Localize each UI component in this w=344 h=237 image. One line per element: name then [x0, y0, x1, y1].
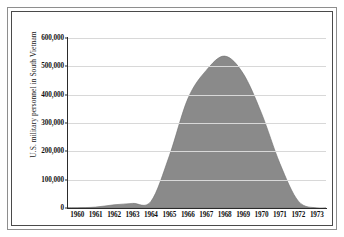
x-axis-tick-label: 1965: [162, 211, 176, 219]
y-axis-tick-label: 400,000: [41, 91, 64, 99]
x-axis-tick-label: 1966: [181, 211, 195, 219]
y-axis-tick-label: 300,000: [41, 119, 64, 127]
area-series-path: [68, 56, 326, 208]
figure-outer-border: U.S. military personnel in South Vietnam…: [7, 7, 337, 230]
gridline: [68, 95, 326, 96]
y-axis-tick-mark: [65, 38, 68, 39]
y-axis-tick-mark: [65, 151, 68, 152]
x-axis-tick-label: 1967: [199, 211, 213, 219]
chart-figure: U.S. military personnel in South Vietnam…: [12, 12, 332, 225]
x-axis-tick-labels: 1960196119621963196419651966196719681969…: [68, 211, 326, 225]
figure-inner-border: U.S. military personnel in South Vietnam…: [11, 11, 333, 226]
x-axis-tick-label: 1968: [218, 211, 232, 219]
x-axis-tick-label: 1971: [273, 211, 287, 219]
y-axis-tick-label: 0: [61, 204, 65, 212]
x-axis-tick-label: 1960: [70, 211, 84, 219]
y-axis-tick-label: 600,000: [41, 34, 64, 42]
y-axis-tick-mark: [65, 208, 68, 209]
x-axis-tick-label: 1964: [144, 211, 158, 219]
y-axis-tick-label: 200,000: [41, 147, 64, 155]
gridline: [68, 66, 326, 67]
x-axis-tick-label: 1973: [310, 211, 324, 219]
y-axis-tick-label: 100,000: [41, 176, 64, 184]
plot-area: [68, 38, 326, 208]
y-axis-tick-mark: [65, 66, 68, 67]
y-axis-tick-mark: [65, 94, 68, 95]
y-axis-tick-labels: 0100,000200,000300,000400,000500,000600,…: [28, 12, 66, 225]
x-axis-line: [67, 208, 327, 209]
x-axis-tick-label: 1962: [107, 211, 121, 219]
x-axis-tick-label: 1969: [236, 211, 250, 219]
gridline: [68, 180, 326, 181]
gridline: [68, 38, 326, 39]
gridline: [68, 151, 326, 152]
y-axis-tick-mark: [65, 179, 68, 180]
y-axis-tick-label: 500,000: [41, 62, 64, 70]
x-axis-tick-label: 1963: [126, 211, 140, 219]
gridline: [68, 123, 326, 124]
x-axis-tick-label: 1970: [255, 211, 269, 219]
x-axis-tick-label: 1961: [89, 211, 103, 219]
x-axis-tick-label: 1972: [291, 211, 305, 219]
y-axis-tick-mark: [65, 123, 68, 124]
